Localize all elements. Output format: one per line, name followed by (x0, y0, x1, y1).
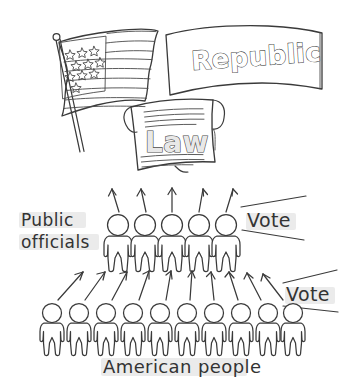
law-scroll-icon: Law (124, 99, 225, 172)
arrows-people-to-officials (58, 271, 283, 300)
figure-citizen (94, 304, 118, 356)
figure-citizen (121, 304, 145, 356)
figure-official (131, 215, 159, 272)
public-officials-label-group: Public officials (19, 210, 99, 252)
figure-citizen (229, 304, 253, 356)
people-row (40, 304, 305, 356)
figure-citizen (175, 304, 199, 356)
american-people-label-group: American people (101, 356, 261, 377)
officials-row (104, 215, 240, 272)
banner-label: Republic (190, 37, 322, 76)
american-people-label: American people (103, 356, 261, 377)
republic-diagram: Republic Law (0, 0, 343, 391)
vote-upper-label: Vote (247, 209, 291, 231)
figure-official (104, 215, 132, 272)
american-flag-icon (53, 29, 158, 152)
law-label: Law (145, 126, 209, 159)
ribbon-banner-icon: Republic (166, 26, 322, 95)
figure-citizen (67, 304, 91, 356)
vote-upper-group: Vote (241, 196, 306, 240)
figure-citizen (40, 304, 64, 356)
illustration-canvas: Republic Law (0, 0, 343, 391)
public-officials-label-line1: Public (21, 210, 74, 230)
figure-official (185, 215, 213, 272)
figure-citizen (148, 304, 172, 356)
figure-citizen (281, 304, 305, 356)
scroll-text-lines-top (144, 109, 204, 127)
flag-pole-finial (53, 34, 60, 41)
figure-citizen (202, 304, 226, 356)
figure-official (158, 215, 186, 272)
public-officials-label-line2: officials (21, 232, 90, 252)
vote-lower-label: Vote (286, 283, 330, 305)
figure-citizen (256, 304, 280, 356)
figure-official (212, 215, 240, 272)
arrows-officials-to-law (109, 188, 238, 212)
